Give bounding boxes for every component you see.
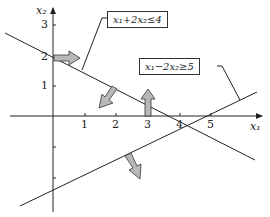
y-tick-label-2: 2 <box>41 51 48 62</box>
y-axis-label: x₂ <box>36 5 47 16</box>
leader-line-2 <box>217 66 240 100</box>
constraint-line-2 <box>20 92 257 206</box>
diagram-canvas <box>0 0 270 217</box>
direction-arrow-down-left <box>99 86 117 108</box>
x-tick-label-5: 5 <box>207 119 214 130</box>
direction-arrow-up <box>141 89 155 116</box>
x-axis-label: x₁ <box>250 121 261 132</box>
leader-line-1 <box>82 18 107 70</box>
x-tick-label-3: 3 <box>144 119 151 130</box>
x-tick-label-4: 4 <box>176 119 183 130</box>
constraint-box-2: x₁−2x₂≥5 <box>139 58 200 75</box>
direction-arrow-right <box>54 51 80 65</box>
constraint-box-1: x₁+2x₂≤4 <box>107 11 168 28</box>
x-tick-label-1: 1 <box>81 119 88 130</box>
x-tick-label-2: 2 <box>112 119 119 130</box>
direction-arrow-down-right <box>125 153 141 179</box>
y-tick-label-3: 3 <box>41 19 48 30</box>
y-tick-label-1: 1 <box>41 80 48 91</box>
